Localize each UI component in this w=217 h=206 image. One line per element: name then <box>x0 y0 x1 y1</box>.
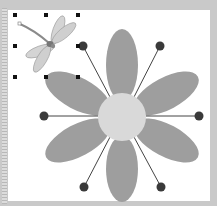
dragonfly-icon[interactable] <box>18 14 79 74</box>
selection-handle-tl[interactable] <box>13 13 17 17</box>
selection-handle-bc[interactable] <box>44 75 48 79</box>
spoke-dot <box>40 112 49 121</box>
spoke-dot <box>195 112 204 121</box>
spoke-dot <box>157 183 166 192</box>
petal-bottom <box>106 136 138 202</box>
spoke-dot <box>80 183 89 192</box>
flower-center <box>98 93 146 141</box>
flower[interactable] <box>39 29 206 202</box>
selection-handle-tc[interactable] <box>44 13 48 17</box>
selection-handle-mr[interactable] <box>76 44 80 48</box>
artwork <box>0 0 217 206</box>
selection-handle-bl[interactable] <box>13 75 17 79</box>
selection-handle-tr[interactable] <box>76 13 80 17</box>
petal-top <box>106 29 138 101</box>
selection-handle-ml[interactable] <box>13 44 17 48</box>
selection-handle-br[interactable] <box>76 75 80 79</box>
spoke-dot <box>156 42 165 51</box>
